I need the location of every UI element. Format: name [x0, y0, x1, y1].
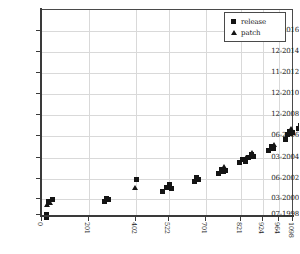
data-point-release [299, 125, 300, 130]
gridline-horizontal [42, 73, 292, 74]
data-point-patch [221, 164, 227, 169]
data-point-patch [271, 142, 277, 147]
gridline-vertical [89, 10, 90, 215]
x-tick-label: 701 [200, 222, 208, 234]
x-tick-mark [88, 216, 89, 221]
x-tick-label: 821 [235, 222, 243, 234]
x-axis-line [40, 215, 294, 217]
gridline-horizontal [42, 115, 292, 116]
data-point-release [106, 197, 111, 202]
data-point-patch [132, 185, 138, 190]
y-tick-mark [36, 72, 41, 73]
y-tick-mark [36, 157, 41, 158]
x-tick-label: 522 [163, 222, 171, 234]
y-tick-label: 03-2004 [263, 153, 299, 161]
x-tick-mark [168, 216, 169, 221]
gridline-horizontal [42, 136, 292, 137]
y-tick-mark [36, 93, 41, 94]
legend-label-patch: patch [241, 29, 260, 37]
x-tick-label: 924 [257, 222, 265, 234]
x-tick-label: 402 [130, 222, 138, 234]
x-tick-mark [205, 216, 206, 221]
gridline-horizontal [42, 94, 292, 95]
x-tick-mark [292, 216, 293, 221]
y-tick-label: 03-2000 [263, 194, 299, 202]
legend-label-release: release [241, 18, 266, 26]
triangle-marker-icon [229, 30, 238, 35]
legend-item-patch: patch [229, 27, 281, 38]
x-tick-mark [262, 216, 263, 221]
data-point-patch [47, 200, 53, 205]
gridline-horizontal [42, 52, 292, 53]
y-axis-line [40, 8, 42, 217]
x-tick-label: 0 [36, 222, 44, 226]
x-tick-label: 964 [273, 222, 281, 234]
data-point-patch [243, 155, 249, 160]
y-tick-label: 12-2008 [263, 110, 299, 118]
y-tick-label: 12-2014 [263, 47, 299, 55]
y-tick-mark [36, 30, 41, 31]
x-tick-mark [41, 216, 42, 221]
x-tick-label: 201 [83, 222, 91, 234]
gridline-horizontal [42, 179, 292, 180]
x-tick-mark [278, 216, 279, 221]
chart-legend: release patch [224, 12, 286, 42]
x-tick-mark [240, 216, 241, 221]
x-tick-label: 1098 [287, 222, 295, 238]
y-tick-label: 06-2002 [263, 174, 299, 182]
y-tick-mark [36, 135, 41, 136]
data-point-release [134, 177, 139, 182]
y-tick-label: 11-2012 [263, 68, 299, 76]
data-point-release [169, 186, 174, 191]
y-tick-mark [36, 214, 41, 215]
y-tick-mark [36, 178, 41, 179]
gridline-vertical [206, 10, 207, 215]
data-point-patch [249, 150, 255, 155]
y-tick-mark [36, 198, 41, 199]
x-tick-mark [135, 216, 136, 221]
legend-item-release: release [229, 16, 281, 27]
y-tick-label: 07-1998 [263, 210, 299, 218]
y-tick-label: 12-2010 [263, 89, 299, 97]
y-tick-mark [36, 51, 41, 52]
gridline-horizontal [42, 199, 292, 200]
data-point-release [196, 177, 201, 182]
y-tick-mark [36, 114, 41, 115]
scatter-chart-figure: 12-201612-201411-201212-201012-200806-20… [0, 0, 299, 254]
y-tick-label: 06-2006 [263, 131, 299, 139]
square-marker-icon [229, 19, 238, 24]
